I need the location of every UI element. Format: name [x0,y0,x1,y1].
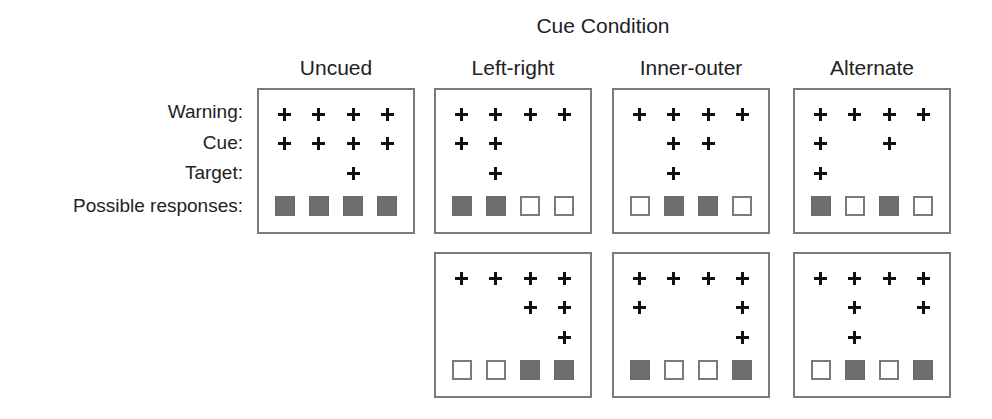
response-square-empty [630,196,650,216]
warning-plus-icon [554,104,576,126]
response-square-filled [309,196,329,216]
warning-plus-icon [451,104,473,126]
response-square-filled [879,196,899,216]
warning-plus-icon [554,268,576,290]
response-square-empty [811,360,831,380]
cue-plus-icon [554,297,576,319]
target-plus-icon [732,327,754,349]
warning-plus-icon [913,268,935,290]
response-square-empty [732,196,752,216]
target-plus-icon [844,327,866,349]
cue-plus-icon [451,133,473,155]
cue-plus-icon [377,133,399,155]
warning-plus-icon [663,104,685,126]
cue-plus-icon [913,297,935,319]
warning-plus-icon [810,268,832,290]
row-label-warning: Warning: [168,101,243,123]
target-plus-icon [343,163,365,185]
figure-title: Cue Condition [503,14,703,38]
target-plus-icon [554,327,576,349]
cue-plus-icon [698,133,720,155]
target-plus-icon [485,163,507,185]
cue-plus-icon [308,133,330,155]
warning-plus-icon [520,104,542,126]
target-plus-icon [663,163,685,185]
cue-plus-icon [485,133,507,155]
panel-uncued-row1 [257,88,415,234]
row-label-possible-responses: Possible responses: [73,195,243,217]
warning-plus-icon [629,268,651,290]
panel-left-right-row1 [434,88,592,234]
warning-plus-icon [732,268,754,290]
column-header-inner-outer: Inner-outer [612,56,770,80]
warning-plus-icon [698,104,720,126]
warning-plus-icon [274,104,296,126]
response-square-filled [664,196,684,216]
response-square-filled [275,196,295,216]
response-square-filled [377,196,397,216]
warning-plus-icon [810,104,832,126]
cue-plus-icon [732,297,754,319]
warning-plus-icon [879,268,901,290]
cue-plus-icon [879,133,901,155]
cue-plus-icon [343,133,365,155]
row-label-cue: Cue: [203,132,243,154]
response-square-filled [630,360,650,380]
response-square-filled [520,360,540,380]
response-square-empty [554,196,574,216]
response-square-filled [732,360,752,380]
response-square-filled [913,360,933,380]
panel-inner-outer-row2 [612,252,770,398]
response-square-empty [698,360,718,380]
warning-plus-icon [663,268,685,290]
row-label-target: Target: [185,162,243,184]
response-square-empty [520,196,540,216]
column-header-left-right: Left-right [434,56,592,80]
warning-plus-icon [629,104,651,126]
warning-plus-icon [879,104,901,126]
column-header-alternate: Alternate [793,56,951,80]
target-plus-icon [810,163,832,185]
warning-plus-icon [844,268,866,290]
warning-plus-icon [485,268,507,290]
warning-plus-icon [377,104,399,126]
response-square-empty [879,360,899,380]
response-square-filled [845,360,865,380]
warning-plus-icon [520,268,542,290]
panel-alternate-row2 [793,252,951,398]
response-square-filled [486,196,506,216]
response-square-empty [452,360,472,380]
warning-plus-icon [844,104,866,126]
panel-inner-outer-row1 [612,88,770,234]
response-square-empty [913,196,933,216]
warning-plus-icon [732,104,754,126]
response-square-empty [845,196,865,216]
cue-plus-icon [663,133,685,155]
cue-plus-icon [629,297,651,319]
response-square-empty [664,360,684,380]
response-square-filled [452,196,472,216]
warning-plus-icon [308,104,330,126]
response-square-filled [343,196,363,216]
cue-plus-icon [844,297,866,319]
panel-left-right-row2 [434,252,592,398]
warning-plus-icon [913,104,935,126]
response-square-filled [698,196,718,216]
cue-plus-icon [810,133,832,155]
warning-plus-icon [343,104,365,126]
response-square-filled [554,360,574,380]
warning-plus-icon [451,268,473,290]
response-square-empty [486,360,506,380]
response-square-filled [811,196,831,216]
cue-plus-icon [520,297,542,319]
warning-plus-icon [485,104,507,126]
warning-plus-icon [698,268,720,290]
column-header-uncued: Uncued [257,56,415,80]
panel-alternate-row1 [793,88,951,234]
cue-plus-icon [274,133,296,155]
